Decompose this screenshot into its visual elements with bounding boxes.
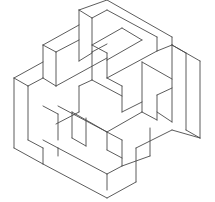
figure-edge xyxy=(107,150,122,158)
figure-edge xyxy=(14,62,43,78)
figure-edge xyxy=(28,140,43,148)
figure-edge xyxy=(107,78,122,86)
figure-edge xyxy=(92,10,107,18)
figure-edge xyxy=(157,45,172,51)
figure-edge xyxy=(43,45,56,52)
figure-edge xyxy=(72,112,107,132)
figure-edge xyxy=(43,106,58,114)
figure-edge xyxy=(43,25,79,45)
figure-edge xyxy=(142,62,172,79)
figure-edge xyxy=(79,0,107,10)
figure-edge xyxy=(157,88,172,95)
figure-edge xyxy=(172,130,200,138)
figure-edge xyxy=(107,51,157,78)
figure-edge xyxy=(56,40,79,52)
figure-edge xyxy=(56,112,79,124)
figure-edge xyxy=(107,112,142,132)
figure-edge xyxy=(122,28,142,40)
figure-edge xyxy=(107,40,142,60)
figure-line-group xyxy=(14,0,200,198)
figure-edge xyxy=(43,78,56,86)
figure-edge xyxy=(172,45,186,53)
figure-edge xyxy=(92,28,122,45)
figure-edge xyxy=(107,182,136,198)
figure-edge xyxy=(157,112,172,122)
figure-edge xyxy=(28,78,43,86)
figure-edge xyxy=(79,53,92,61)
figure-edge xyxy=(92,80,122,96)
impossible-hexagon-figure xyxy=(0,0,215,202)
figure-edge xyxy=(58,148,107,174)
figure-edge xyxy=(107,166,122,174)
figure-edge xyxy=(14,148,43,164)
figure-edge xyxy=(92,45,107,53)
figure-edge xyxy=(79,80,92,86)
figure-edge xyxy=(136,130,172,148)
figure-edge xyxy=(72,138,86,146)
figure-edge xyxy=(14,78,28,86)
figure-edge xyxy=(92,44,107,52)
figure-edge xyxy=(58,106,122,140)
figure-edge xyxy=(186,130,200,138)
figure-edge xyxy=(142,112,157,120)
figure-edge xyxy=(43,140,58,148)
figure-edge xyxy=(79,10,92,18)
figure-edge xyxy=(122,102,142,112)
figure-edge xyxy=(56,58,107,86)
